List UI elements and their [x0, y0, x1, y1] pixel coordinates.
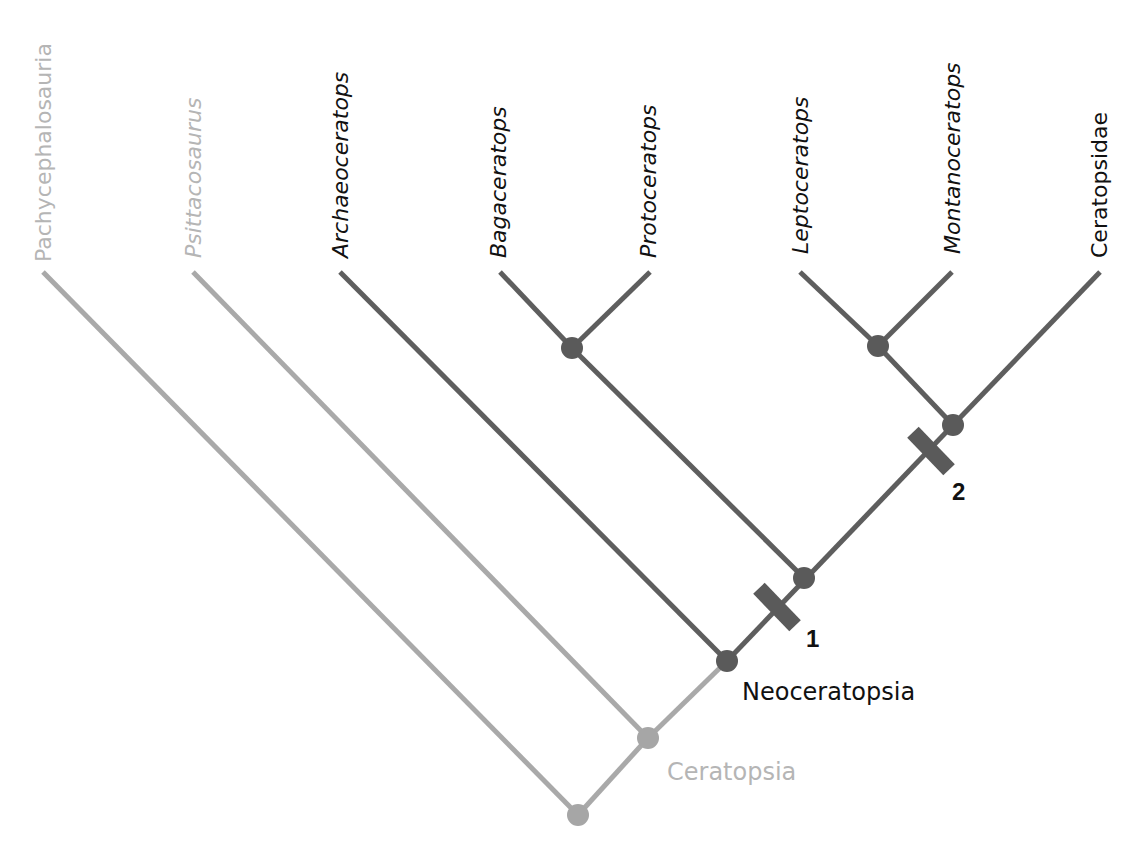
branch-neoceratopsia-spine [727, 425, 953, 661]
node-coronosauria [793, 567, 815, 589]
marker-label-2: 2 [952, 478, 965, 505]
ingroup-branches [340, 272, 1100, 661]
taxon-label-montanoceratops: Montanoceratops [940, 62, 965, 254]
taxon-label-archaeoceratops: Archaeoceratops [328, 72, 353, 260]
outgroup-branches [43, 272, 727, 815]
node-root [567, 804, 589, 826]
taxon-label-ceratopsidae: Ceratopsidae [1087, 112, 1112, 258]
nodes [561, 335, 964, 826]
branch-montanoceratops [878, 272, 952, 346]
taxon-label-pachycephalosauria: Pachycephalosauria [31, 43, 56, 262]
clade-label-ceratopsia: Ceratopsia [667, 758, 796, 786]
node-ceratopsia [637, 727, 659, 749]
branch-pachycephalosauria [43, 272, 578, 815]
clade-labels: Neoceratopsia Ceratopsia [667, 678, 915, 786]
taxon-label-protoceratops: Protoceratops [636, 104, 661, 258]
taxon-label-bagaceratops: Bagaceratops [486, 106, 511, 258]
cladogram: Pachycephalosauria Psittacosaurus Archae… [0, 0, 1134, 849]
taxon-label-leptoceratops: Leptoceratops [788, 96, 813, 254]
clade-label-neoceratopsia: Neoceratopsia [742, 678, 915, 706]
node-leptoceratopsid-ceratopsid [942, 414, 964, 436]
branch-protoceratops [572, 272, 650, 348]
node-neoceratopsia [716, 650, 738, 672]
taxon-label-psittacosaurus: Psittacosaurus [181, 98, 206, 258]
node-protoceratopsidae [561, 337, 583, 359]
node-leptoceratopsidae [867, 335, 889, 357]
marker-label-1: 1 [806, 625, 819, 652]
taxon-labels: Pachycephalosauria Psittacosaurus Archae… [31, 43, 1112, 262]
branch-archaeoceratops [340, 272, 727, 661]
branch-leptoceratopsid-stem [878, 346, 953, 425]
branch-leptoceratops [800, 272, 878, 346]
branch-bagaceratops [500, 272, 572, 348]
marker-labels: 1 2 [806, 478, 965, 652]
branch-ceratopsidae [953, 272, 1100, 425]
branch-root-to-ceratopsia [578, 738, 648, 815]
branch-ceratopsia-to-neoceratopsia [648, 661, 727, 738]
